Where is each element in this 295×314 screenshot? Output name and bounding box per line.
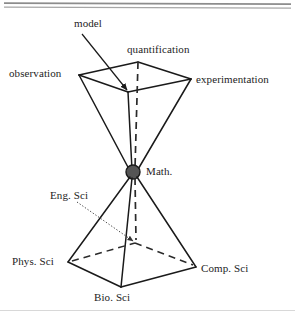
- edge-quantification-experimentation: [138, 62, 191, 79]
- edge-bio-sci-to-comp-sci: [121, 267, 196, 287]
- label-comp-sci: Comp. Sci: [201, 262, 248, 274]
- edge-modelfront-to-math: [128, 92, 132, 170]
- diagram-figure: model quantification observation experim…: [0, 0, 295, 314]
- top-rule-2: [4, 7, 291, 8]
- upper-pyramid-group: [79, 62, 191, 171]
- edge-math-to-bio-sci: [121, 178, 132, 287]
- edge-math-to-comp-sci: [137, 177, 196, 267]
- lower-pyramid-hidden-edges: [72, 243, 193, 265]
- top-rule-1: [4, 3, 291, 4]
- label-observation: observation: [9, 67, 61, 79]
- hidden-edge-eng-sci-to-comp-sci: [135, 243, 193, 265]
- edge-experimentation-to-math: [137, 79, 191, 171]
- label-quantification: quantification: [127, 43, 190, 55]
- hidden-edge-math-to-eng-sci: [135, 178, 136, 240]
- math-node-circle: [126, 165, 140, 179]
- edge-phys-sci-to-bio-sci: [68, 262, 121, 287]
- label-math: Math.: [146, 165, 172, 177]
- hidden-edge-quantification-to-math: [135, 62, 138, 168]
- top-rules-group: [4, 3, 291, 8]
- label-phys-sci: Phys. Sci: [12, 255, 54, 267]
- label-eng-sci: Eng. Sci: [50, 189, 88, 201]
- leader-line-eng-sci: [77, 202, 133, 241]
- edge-observation-quantification: [79, 62, 138, 75]
- label-model: model: [74, 17, 102, 29]
- leader-line-model: [82, 34, 127, 90]
- label-experimentation: experimentation: [196, 73, 269, 85]
- label-bio-sci: Bio. Sci: [94, 291, 130, 303]
